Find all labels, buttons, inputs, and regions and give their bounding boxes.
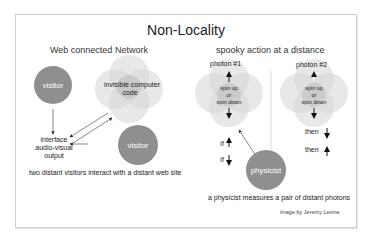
photon1-spin-down: spin down xyxy=(214,99,244,106)
code-label-line2: code xyxy=(104,89,156,97)
interface-line1: interface xyxy=(34,136,74,144)
left-heading: Web connected Network xyxy=(50,45,148,55)
photon1-or: or xyxy=(214,92,244,99)
page-title: Non-Locality xyxy=(16,22,356,38)
photon2-or: or xyxy=(299,92,329,99)
interface-line3: output xyxy=(34,152,74,160)
visitor-top-circle: visitor xyxy=(34,66,72,104)
if-down-label: If xyxy=(220,156,224,163)
then-up-label: then xyxy=(305,146,319,153)
image-credit: image by Jeremy Levine xyxy=(280,209,340,215)
then-down-label: then xyxy=(305,128,319,135)
photon1-label: photon #1 xyxy=(210,60,241,67)
photon1-spin-text: spin up or spin down xyxy=(214,85,244,106)
photon2-label: photon #2 xyxy=(296,61,327,68)
left-caption: two distant visitors interact with a dis… xyxy=(29,169,182,176)
code-label-line1: invisible computer xyxy=(104,81,156,89)
photon1-spin-up: spin up xyxy=(214,85,244,92)
physicist-circle: physicist xyxy=(246,150,286,190)
if-up-label: If xyxy=(220,140,224,147)
interface-label: interface audio-visual output xyxy=(34,136,74,160)
photon2-spin-up: spin up xyxy=(299,85,329,92)
diagram-frame: Non-Locality Web connected Network visit… xyxy=(15,14,357,228)
visitor-top-label: visitor xyxy=(43,81,64,90)
visitor-bottom-label: visitor xyxy=(128,141,149,150)
physicist-label: physicist xyxy=(251,166,282,175)
interface-line2: audio-visual xyxy=(34,144,74,152)
photon2-spin-down: spin down xyxy=(299,99,329,106)
code-label: invisible computer code xyxy=(104,81,156,97)
right-heading: spooky action at a distance xyxy=(216,45,325,55)
visitor-bottom-circle: visitor xyxy=(118,125,158,165)
photon2-spin-text: spin up or spin down xyxy=(299,85,329,106)
right-caption: a physicist measures a pair of distant p… xyxy=(208,194,350,201)
